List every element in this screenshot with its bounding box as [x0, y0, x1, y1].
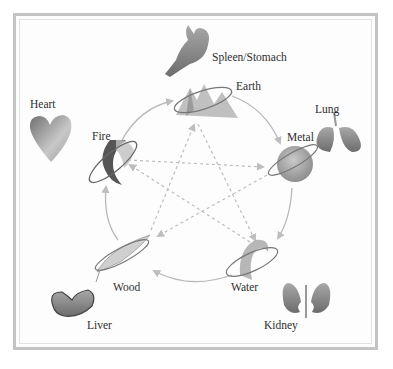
wood-element-icon: [92, 235, 152, 282]
arrow-water-to-fire: [130, 165, 250, 242]
kidney-organ-icon: [283, 283, 331, 318]
earth-element-icon: [172, 82, 238, 118]
arrow-fire-to-earth: [122, 101, 172, 140]
arrow-water-to-wood: [154, 271, 232, 282]
element-label-fire: Fire: [92, 131, 111, 143]
generating-cycle-arrows: [106, 96, 293, 282]
arrow-wood-to-fire: [106, 187, 119, 240]
heart-organ-icon: [30, 115, 71, 162]
controlling-cycle-arrows: [128, 124, 267, 242]
organ-label-heart: Heart: [30, 99, 56, 111]
element-label-metal: Metal: [287, 132, 314, 144]
arrow-metal-to-water: [278, 188, 292, 238]
organ-label-lung: Lung: [315, 104, 339, 116]
element-label-earth: Earth: [236, 81, 261, 93]
element-label-water: Water: [231, 282, 258, 294]
arrow-wood-to-earth: [151, 125, 194, 230]
organ-label-kidney: Kidney: [264, 320, 298, 332]
lung-organ-icon: [317, 112, 361, 152]
fire-element-icon: [84, 136, 142, 188]
stomach-organ-icon: [165, 25, 209, 77]
liver-organ-icon: [52, 290, 94, 316]
five-elements-diagram: [0, 0, 393, 369]
arrow-earth-to-metal: [232, 96, 280, 143]
arrow-metal-to-wood: [158, 175, 267, 236]
organ-label-liver: Liver: [87, 320, 112, 332]
arrow-earth-to-water: [198, 124, 255, 240]
organ-label-spleen-stomach: Spleen/Stomach: [212, 52, 287, 64]
metal-element-icon: [265, 140, 320, 182]
arrow-fire-to-metal: [128, 160, 263, 167]
element-label-wood: Wood: [113, 282, 140, 294]
